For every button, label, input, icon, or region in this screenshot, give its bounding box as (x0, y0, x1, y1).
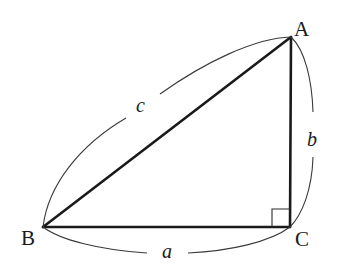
right-triangle-diagram: A B C c b a (0, 0, 352, 271)
side-b-brace-upper (291, 37, 313, 112)
side-c-brace-upper (160, 37, 291, 94)
side-b-brace-lower (290, 157, 313, 227)
right-angle-marker (272, 209, 290, 227)
vertex-label-b: B (21, 226, 35, 250)
side-label-a: a (162, 240, 172, 262)
side-a-brace-right (188, 227, 290, 253)
vertex-label-a: A (294, 17, 310, 41)
side-b-line (290, 37, 291, 227)
side-label-b: b (307, 128, 317, 150)
side-c-line (43, 37, 291, 227)
vertex-label-c: C (295, 227, 309, 251)
side-label-c: c (136, 94, 145, 116)
side-a-brace-left (43, 227, 147, 253)
